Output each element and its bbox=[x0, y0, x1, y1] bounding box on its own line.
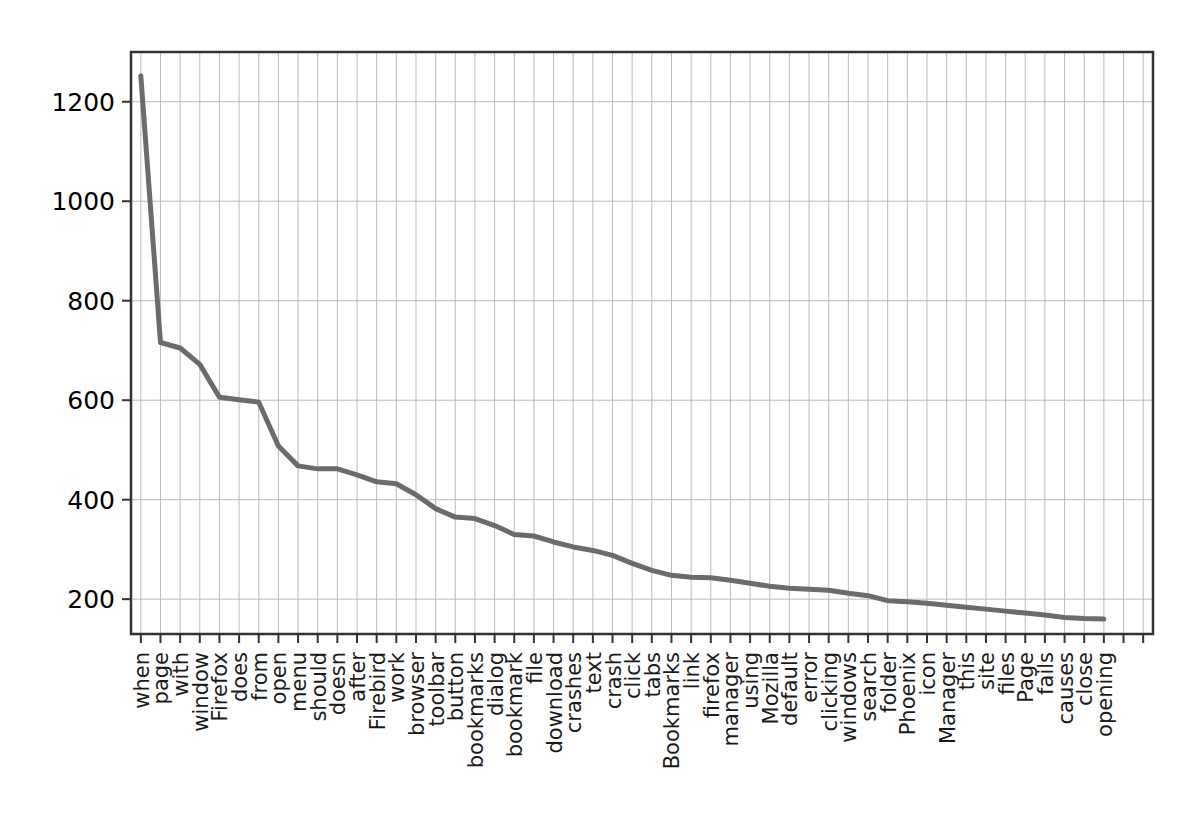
y-tick-label: 1000 bbox=[51, 187, 115, 216]
x-axis-ticks bbox=[141, 634, 1143, 643]
series-path bbox=[141, 76, 1104, 619]
y-tick-label: 400 bbox=[67, 486, 115, 515]
y-tick-label: 800 bbox=[67, 287, 115, 316]
y-tick-label: 600 bbox=[67, 386, 115, 415]
line-chart: 20040060080010001200 whenpagewithwindowF… bbox=[0, 0, 1197, 833]
data-series-line bbox=[141, 76, 1104, 619]
grid-lines bbox=[131, 52, 1153, 634]
chart-figure: 20040060080010001200 whenpagewithwindowF… bbox=[0, 0, 1197, 833]
y-tick-label: 200 bbox=[67, 585, 115, 614]
y-axis-ticks bbox=[122, 102, 131, 599]
x-tick-labels: whenpagewithwindowFirefoxdoesfromopenmen… bbox=[130, 651, 1117, 769]
y-tick-labels: 20040060080010001200 bbox=[51, 88, 115, 614]
y-tick-label: 1200 bbox=[51, 88, 115, 117]
plot-frame bbox=[131, 52, 1153, 634]
x-tick-label: opening bbox=[1093, 652, 1117, 737]
